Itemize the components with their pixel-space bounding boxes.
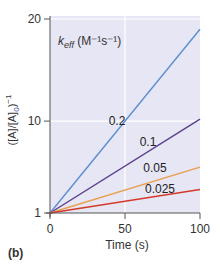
legend-title: keff (M⁻¹s⁻¹): [58, 34, 121, 50]
legend-units: (M⁻¹s⁻¹): [77, 34, 121, 48]
series-label-0_2: 0.2: [109, 114, 126, 128]
y-axis-label: ([A]/[A]0)−1: [4, 95, 21, 146]
ylabel-tail: ): [6, 104, 18, 108]
panel-label: (b): [8, 246, 23, 260]
y-tick-label-1: 1: [34, 206, 41, 220]
series-label-0_025: 0.025: [145, 182, 175, 196]
series-label-0_05: 0.05: [143, 161, 167, 175]
y-tick-label-20: 20: [28, 12, 42, 26]
y-tick-label-10: 10: [28, 114, 42, 128]
series-label-0_1: 0.1: [140, 135, 157, 149]
x-tick-label-0: 0: [47, 222, 54, 236]
legend-subscript: eff: [64, 40, 74, 50]
x-tick-label-100: 100: [190, 222, 210, 236]
ylabel-sup: −1: [4, 95, 13, 104]
x-axis-label: Time (s): [105, 238, 149, 252]
ylabel-main: ([A]/[A]: [6, 112, 18, 146]
x-tick-label-50: 50: [118, 222, 132, 236]
ylabel-sub: 0: [12, 107, 21, 111]
